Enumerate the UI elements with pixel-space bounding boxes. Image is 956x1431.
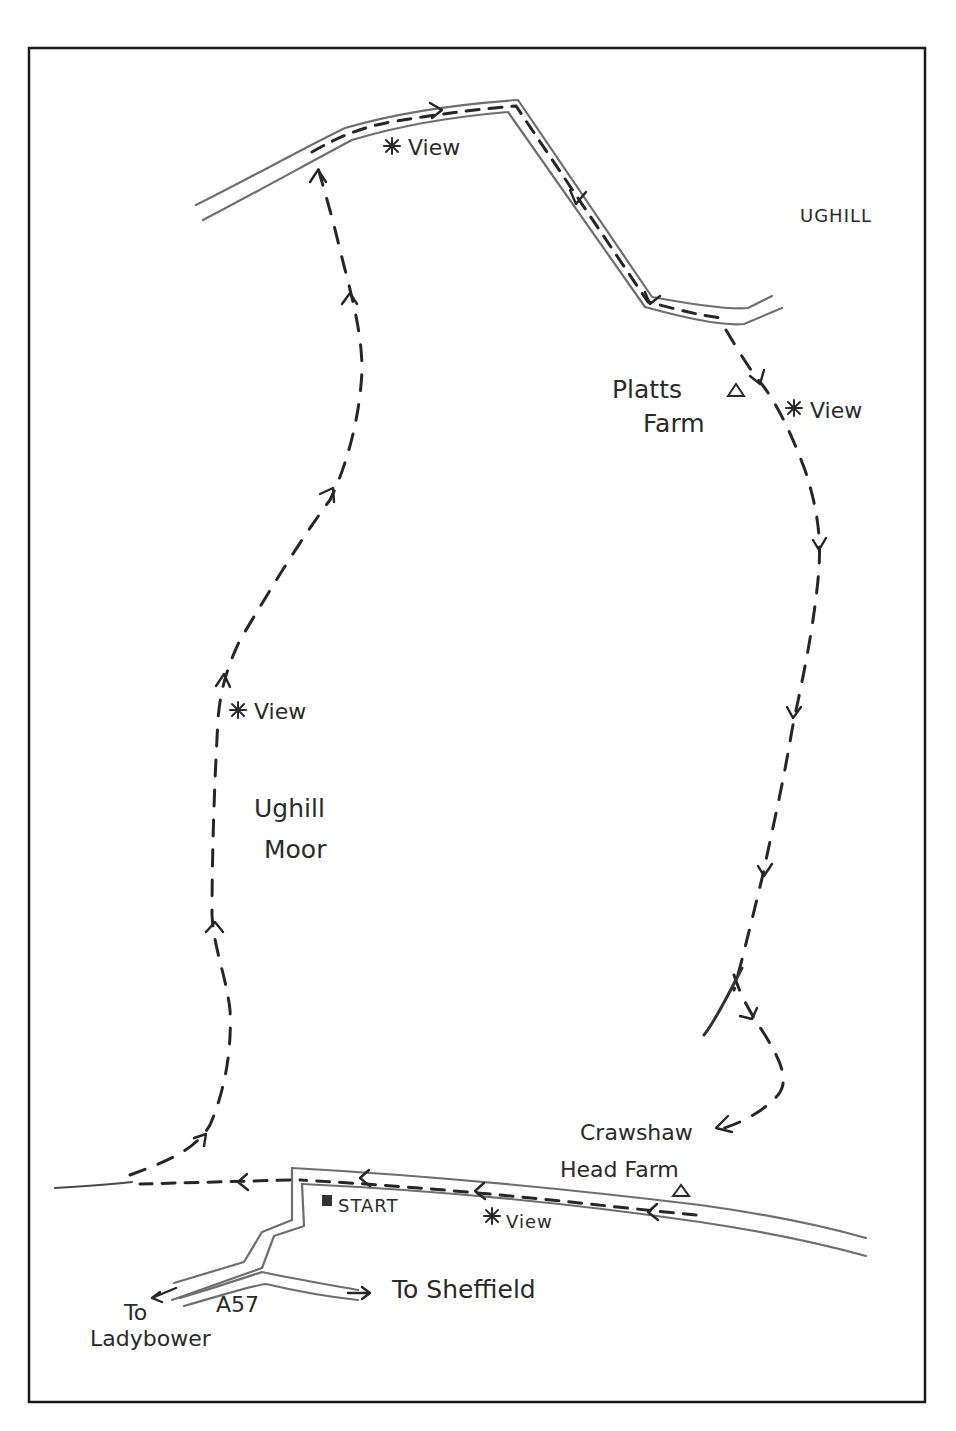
asterisk-view-icon [484,1208,500,1224]
to-ladybower-label-line2: Ladybower [90,1326,212,1351]
map-frame [29,48,925,1402]
crawshaw-farm-label-line2: Head Farm [560,1157,679,1182]
platts-farm-label-line1: Platts [612,375,682,404]
to-sheffield-label: To Sheffield [391,1275,536,1304]
a57-label: A57 [216,1292,259,1317]
to-ladybower-label-line1: To [123,1300,147,1325]
region-label-ughill: UGHILL [800,205,872,226]
route-map: UGHILL View View View View Platts Farm U… [0,0,956,1431]
start-label: START [338,1195,399,1216]
view-label: View [506,1211,553,1232]
asterisk-view-icon [786,400,802,416]
crawshaw-farm-label-line1: Crawshaw [580,1120,693,1145]
square-start-icon [322,1195,332,1206]
platts-farm-label-line2: Farm [643,409,705,438]
view-label: View [810,398,862,423]
view-label: View [254,699,306,724]
asterisk-view-icon [230,702,246,718]
ughill-moor-label-line2: Moor [264,835,327,864]
view-label: View [408,135,460,160]
ughill-moor-label-line1: Ughill [254,794,325,823]
asterisk-view-icon [384,138,400,154]
